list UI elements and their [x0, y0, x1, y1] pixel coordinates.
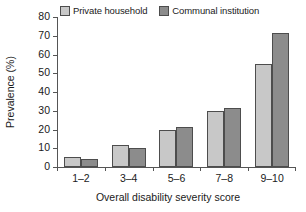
y-tick-label-0: 0 — [44, 160, 50, 173]
bar-group-5-6 — [153, 17, 201, 167]
x-tick-label-9-10: 9–10 — [248, 171, 296, 185]
y-tick-label-70: 70 — [38, 29, 50, 42]
bar-private-household-9-10 — [255, 64, 272, 167]
bar-private-household-5-6 — [159, 130, 176, 168]
x-axis-line — [57, 167, 296, 168]
x-tick-label-1-2: 1–2 — [57, 171, 105, 185]
legend-swatch-private-household — [60, 6, 70, 16]
bar-private-household-7-8 — [207, 111, 224, 167]
bar-communal-institution-9-10 — [272, 33, 289, 167]
bar-private-household-1-2 — [64, 157, 81, 167]
bar-group-1-2 — [57, 17, 105, 167]
y-tick-label-30: 30 — [38, 104, 50, 117]
y-tick-label-50: 50 — [38, 66, 50, 79]
y-tick-label-20: 20 — [38, 123, 50, 136]
legend-label-private-household: Private household — [73, 6, 147, 16]
y-tick-label-10: 10 — [38, 141, 50, 154]
x-tick-label-3-4: 3–4 — [105, 171, 153, 185]
bar-private-household-3-4 — [112, 145, 129, 167]
y-tick-label-40: 40 — [38, 85, 50, 98]
bar-group-7-8 — [200, 17, 248, 167]
bar-communal-institution-5-6 — [176, 127, 193, 168]
chart-legend: Private household Communal institution — [60, 4, 259, 18]
x-axis-tick-labels: 1–2 3–4 5–6 7–8 9–10 — [57, 171, 296, 185]
bar-group-9-10 — [248, 17, 296, 167]
bar-communal-institution-7-8 — [224, 108, 241, 167]
bar-group-3-4 — [105, 17, 153, 167]
y-tick-label-60: 60 — [38, 48, 50, 61]
bar-communal-institution-3-4 — [129, 148, 146, 167]
bar-groups — [57, 17, 296, 167]
legend-swatch-communal-institution — [159, 6, 169, 16]
legend-label-communal-institution: Communal institution — [172, 6, 259, 16]
legend-entry-private-household: Private household — [60, 6, 147, 16]
bar-communal-institution-1-2 — [81, 159, 98, 167]
x-axis-title: Overall disability severity score — [40, 190, 296, 204]
x-tick-label-5-6: 5–6 — [153, 171, 201, 185]
plot-area: 0 10 20 30 40 50 60 70 80 — [57, 17, 296, 167]
legend-entry-communal-institution: Communal institution — [159, 6, 259, 16]
y-tick-label-80: 80 — [38, 10, 50, 23]
y-axis-title: Prevalence (%) — [3, 17, 17, 167]
x-tick-label-7-8: 7–8 — [200, 171, 248, 185]
chart-figure: Private household Communal institution P… — [0, 0, 306, 212]
